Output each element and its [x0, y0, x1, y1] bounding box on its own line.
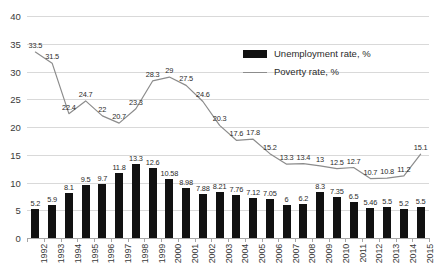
poverty-value-label: 10.8 [380, 167, 394, 176]
x-axis-tick-label: 2006 [274, 244, 284, 263]
legend-item-unemployment: Unemployment rate, % [243, 48, 371, 59]
x-axis-tick [195, 238, 196, 242]
y-axis-tick-label: 30 [10, 66, 21, 77]
poverty-value-label: 12.5 [330, 158, 344, 167]
x-axis-tick [412, 238, 413, 242]
x-axis-tick [77, 238, 78, 242]
x-axis-tick [94, 238, 95, 242]
y-axis-tick-label: 25 [10, 94, 21, 105]
legend-item-poverty: Poverty rate, % [243, 66, 371, 77]
bar-value-label: 7.88 [196, 184, 210, 193]
bar-value-label: 8.21 [213, 182, 227, 191]
bar-value-label: 6 [285, 195, 289, 204]
x-axis-tick [178, 238, 179, 242]
y-axis-labels: 0510152025303540 [0, 16, 25, 238]
bar-swatch-icon [243, 50, 267, 58]
x-axis-tick-label: 2013 [391, 244, 401, 263]
poverty-value-label: 24.7 [79, 90, 93, 99]
x-axis-tick-label: 1997 [123, 244, 133, 263]
y-axis-tick-label: 5 [16, 205, 21, 216]
chart-container: 0510152025303540 5.25.98.19.59.711.813.3… [0, 0, 435, 275]
bar-value-label: 7.05 [263, 189, 277, 198]
x-axis-tick [295, 238, 296, 242]
poverty-value-label: 22.4 [62, 103, 76, 112]
bar-value-label: 9.7 [97, 174, 107, 183]
bar-value-label: 13.3 [129, 154, 143, 163]
x-axis-tick-label: 1993 [56, 244, 66, 263]
x-axis-tick [61, 238, 62, 242]
x-axis-tick [379, 238, 380, 242]
poverty-value-label: 29 [165, 66, 173, 75]
legend-label-unemployment: Unemployment rate, % [274, 48, 371, 59]
poverty-value-label: 27.5 [179, 74, 193, 83]
poverty-value-label: 13.4 [296, 153, 310, 162]
x-axis-tick-label: 2004 [240, 244, 250, 263]
x-axis-tick [345, 238, 346, 242]
x-axis-tick-label: 2001 [190, 244, 200, 263]
bar-value-label: 10.58 [160, 169, 178, 178]
x-axis-tick [362, 238, 363, 242]
bar-value-label: 5.2 [30, 199, 40, 208]
bar-value-label: 6.2 [298, 194, 308, 203]
bar-value-label: 7.76 [229, 185, 243, 194]
x-axis-tick-label: 2003 [224, 244, 234, 263]
x-axis-tick-label: 2007 [291, 244, 301, 263]
x-axis-tick [329, 238, 330, 242]
x-axis-tick-label: 1999 [157, 244, 167, 263]
x-axis-tick [312, 238, 313, 242]
poverty-value-label: 13.3 [280, 153, 294, 162]
x-axis-tick-label: 2002 [207, 244, 217, 263]
poverty-value-label: 10.7 [363, 168, 377, 177]
y-axis-tick-label: 35 [10, 38, 21, 49]
x-axis-tick [111, 238, 112, 242]
poverty-value-label: 24.6 [196, 90, 210, 99]
x-axis-tick [44, 238, 45, 242]
x-axis-tick [144, 238, 145, 242]
bar-value-label: 5.5 [416, 197, 426, 206]
bar-value-label: 12.6 [146, 158, 160, 167]
x-axis-tick [278, 238, 279, 242]
poverty-value-label: 17.8 [246, 128, 260, 137]
line-swatch-icon [243, 68, 267, 76]
legend-label-poverty: Poverty rate, % [274, 66, 339, 77]
bar-value-label: 8.3 [315, 182, 325, 191]
bar-value-label: 11.8 [112, 163, 125, 172]
x-axis-tick-label: 1992 [39, 244, 49, 263]
bar-value-label: 7.35 [330, 187, 344, 196]
x-axis-tick [27, 238, 28, 242]
poverty-value-label: 12.7 [347, 157, 361, 166]
x-axis-tick [396, 238, 397, 242]
x-axis-tick-label: 2000 [173, 244, 183, 263]
x-axis-tick-label: 1998 [140, 244, 150, 263]
poverty-value-label: 31.5 [45, 52, 59, 61]
x-axis-tick [429, 238, 430, 242]
x-axis-tick-label: 2015 [425, 244, 435, 263]
bar-value-label: 8.1 [64, 183, 74, 192]
poverty-value-label: 17.6 [229, 129, 243, 138]
x-axis-tick-label: 1995 [90, 244, 100, 263]
x-axis-tick [262, 238, 263, 242]
bar-value-label: 5.9 [47, 195, 57, 204]
x-axis-tick-label: 2011 [358, 244, 368, 263]
poverty-value-label: 11.2 [397, 165, 410, 174]
y-axis-tick-label: 40 [10, 11, 21, 22]
poverty-value-label: 22 [98, 105, 106, 114]
bar-value-label: 6.5 [349, 192, 359, 201]
poverty-value-label: 33.5 [28, 41, 42, 50]
bar-value-label: 7.12 [246, 188, 260, 197]
x-axis-tick [128, 238, 129, 242]
x-axis-tick-label: 1994 [73, 244, 83, 263]
x-axis-tick-label: 2009 [324, 244, 334, 263]
y-axis-tick-label: 15 [10, 149, 21, 160]
x-axis-tick [161, 238, 162, 242]
x-axis-tick [228, 238, 229, 242]
x-axis: 1992199319941995199619971998199920002001… [27, 238, 429, 275]
x-axis-tick [245, 238, 246, 242]
poverty-value-label: 20.7 [112, 112, 126, 121]
poverty-value-label: 15.2 [263, 143, 277, 152]
x-axis-tick [211, 238, 212, 242]
bar-value-label: 8.98 [179, 178, 193, 187]
bar-value-label: 5.46 [363, 198, 377, 207]
x-axis-tick-label: 2010 [341, 244, 351, 263]
poverty-value-label: 13 [316, 155, 324, 164]
